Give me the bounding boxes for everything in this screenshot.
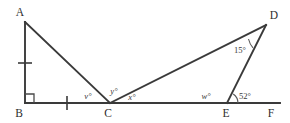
angle-label-15: 15°	[234, 45, 247, 55]
angle-label-v: v°	[84, 91, 92, 101]
angle-arc-52	[233, 94, 238, 103]
vertex-label-F: F	[268, 107, 274, 119]
angle-label-w: w°	[201, 91, 211, 101]
vertex-label-D: D	[270, 9, 278, 21]
vertex-label-E: E	[222, 107, 229, 119]
vertex-label-C: C	[104, 107, 112, 119]
vertex-label-B: B	[15, 107, 23, 119]
segment-AC	[25, 22, 110, 103]
right-angle-marker-B	[25, 94, 34, 103]
angle-label-x: x°	[127, 92, 136, 102]
angle-label-52: 52°	[239, 91, 252, 101]
angle-label-y: y°	[109, 86, 118, 96]
vertex-label-A: A	[16, 6, 25, 18]
geometry-figure: A B C D E F v° y° x° w° 52° 15°	[0, 0, 290, 123]
angle-arc-15	[249, 39, 254, 48]
geometry-canvas: A B C D E F v° y° x° w° 52° 15°	[0, 0, 290, 123]
